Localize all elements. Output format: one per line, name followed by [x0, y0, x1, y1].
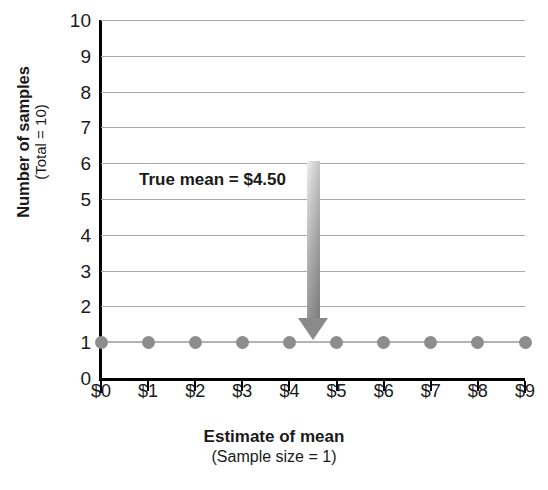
y-tick-label: 7 — [51, 118, 91, 137]
x-axis-line — [99, 378, 525, 381]
gridline — [101, 127, 525, 128]
data-point — [330, 336, 343, 349]
data-point — [189, 336, 202, 349]
y-tick-label: 9 — [51, 47, 91, 66]
series-connector-line — [101, 341, 525, 343]
y-axis-line — [99, 20, 102, 380]
data-point — [519, 336, 532, 349]
data-point — [236, 336, 249, 349]
data-point — [283, 336, 296, 349]
plot-area — [99, 20, 525, 378]
x-tick-label: $9 — [495, 382, 548, 400]
y-tick-label: 10 — [51, 11, 91, 30]
chart-container: Number of samples (Total = 10) 012345678… — [0, 0, 548, 490]
data-point — [471, 336, 484, 349]
y-tick-label: 2 — [51, 297, 91, 316]
x-axis-title: Estimate of mean (Sample size = 1) — [0, 427, 548, 466]
gridline — [101, 20, 525, 21]
y-tick-label: 5 — [51, 190, 91, 209]
gridline — [101, 92, 525, 93]
true-mean-annotation-label: True mean = $4.50 — [0, 170, 425, 190]
data-point — [95, 336, 108, 349]
y-tick-label: 8 — [51, 83, 91, 102]
y-tick-label: 1 — [51, 333, 91, 352]
x-axis-title-sub: (Sample size = 1) — [0, 448, 548, 466]
gridline — [101, 56, 525, 57]
x-axis-title-main: Estimate of mean — [0, 427, 548, 446]
data-point — [377, 336, 390, 349]
data-point — [142, 336, 155, 349]
data-point — [424, 336, 437, 349]
true-mean-arrow-head-icon — [298, 318, 328, 340]
y-tick-label: 3 — [51, 262, 91, 281]
y-tick-label: 4 — [51, 226, 91, 245]
